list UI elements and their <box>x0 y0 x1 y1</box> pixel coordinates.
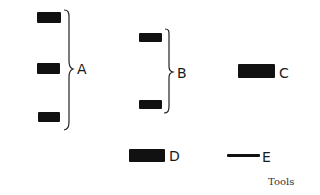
block-a-3 <box>38 112 60 122</box>
brace-b-icon <box>163 28 177 114</box>
block-a-2 <box>37 63 60 74</box>
label-a: A <box>77 62 87 76</box>
caption: Tools <box>268 177 294 187</box>
label-d: D <box>169 149 180 163</box>
block-c <box>238 64 275 78</box>
block-b-1 <box>139 33 162 42</box>
label-c: C <box>279 66 289 80</box>
block-a-1 <box>37 12 61 23</box>
block-d <box>129 149 165 162</box>
label-b: B <box>177 66 187 80</box>
line-e <box>227 154 260 157</box>
block-b-2 <box>139 100 162 109</box>
brace-a-icon <box>62 9 76 131</box>
label-e: E <box>262 150 271 164</box>
